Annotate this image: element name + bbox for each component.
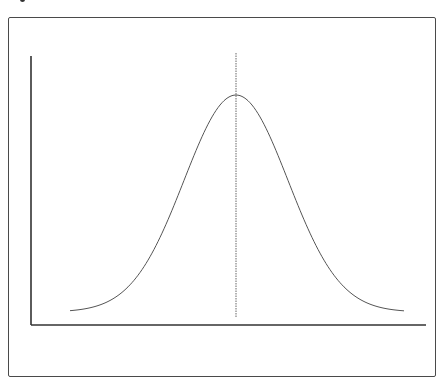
normal-curve [70, 95, 404, 311]
